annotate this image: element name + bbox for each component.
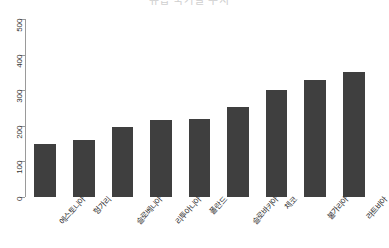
bar bbox=[189, 119, 211, 197]
bar bbox=[304, 80, 326, 197]
bar bbox=[34, 144, 56, 197]
x-axis-label: 라트비아 bbox=[363, 194, 389, 222]
bar bbox=[227, 107, 249, 197]
x-axis-label: 슬로베니아 bbox=[134, 194, 165, 227]
bar bbox=[112, 127, 134, 197]
y-axis-tick-label: 500 bbox=[15, 19, 24, 32]
y-axis-tick-label: 300 bbox=[15, 90, 24, 103]
x-axis-labels: 에스토니아헝가리슬로베니아리투아니아폴란드슬로바키아체코불가리아라트비아 bbox=[25, 194, 373, 248]
x-axis-label: 헝가리 bbox=[91, 194, 113, 217]
x-axis-label: 에스토니아 bbox=[57, 194, 88, 227]
y-axis-tick-label: 100 bbox=[15, 161, 24, 174]
y-axis-tick-label: 200 bbox=[15, 125, 24, 138]
bar bbox=[343, 72, 365, 197]
plot-area: 0100200300400500 bbox=[25, 14, 373, 192]
y-axis-tick-label: 0 bbox=[15, 197, 24, 201]
bar bbox=[150, 120, 172, 197]
x-axis-label: 폴란드 bbox=[206, 194, 228, 217]
bar bbox=[266, 90, 288, 197]
x-axis-label: 리투아니아 bbox=[172, 194, 203, 227]
x-axis-label: 슬로바키아 bbox=[249, 194, 280, 227]
bar bbox=[73, 140, 95, 197]
x-axis-label: 불가리아 bbox=[324, 194, 350, 222]
x-axis-label: 체코 bbox=[281, 194, 298, 211]
y-axis-tick-label: 400 bbox=[15, 54, 24, 67]
bar-series bbox=[26, 19, 373, 197]
chart-title: 유럽 국가별 수치 bbox=[0, 0, 378, 7]
